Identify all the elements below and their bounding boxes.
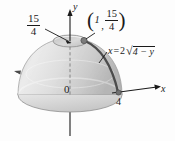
point-y-numerator: 15 — [105, 9, 118, 20]
radical-sign: √ — [126, 45, 133, 57]
equation-variable: x — [108, 46, 112, 56]
x-axis-label: x — [161, 84, 165, 94]
point-y-fraction: 15 4 — [105, 9, 118, 32]
cap-height-fraction: 15 4 — [27, 13, 40, 37]
equation-equals: = — [113, 46, 119, 56]
cap-height-denominator: 4 — [27, 26, 40, 37]
equation-coefficient: 2 — [120, 46, 125, 56]
origin-label: 0 — [64, 84, 70, 95]
point-x-value: 1 — [95, 15, 100, 26]
leader-line-point — [86, 33, 95, 39]
open-paren: ( — [87, 12, 94, 30]
y-axis-arrowhead — [67, 9, 72, 16]
x-tick-label-4: 4 — [116, 97, 121, 107]
equation-radical: √ 4 − y — [126, 45, 155, 57]
cap-height-label: 15 4 — [27, 13, 40, 37]
point-coordinate-label: ( 1 , 15 4 ) — [87, 9, 125, 32]
close-paren: ) — [118, 12, 125, 30]
base-ellipse-front — [18, 95, 122, 112]
point-marker-4 — [116, 90, 121, 95]
x-axis-arrowhead — [154, 85, 161, 90]
curve-equation-label: x = 2 √ 4 − y — [108, 45, 155, 57]
equation-radicand: 4 − y — [133, 46, 155, 57]
cap-height-numerator: 15 — [27, 13, 40, 24]
point-comma: , — [101, 21, 104, 33]
figure-canvas: 15 4 ( 1 , 15 4 ) x = 2 √ 4 − y y x 4 0 — [0, 0, 175, 141]
point-y-denominator: 4 — [105, 22, 118, 33]
point-marker-1-15-4 — [81, 37, 87, 43]
z-axis-arrowhead — [14, 70, 21, 74]
y-axis-label: y — [73, 2, 77, 12]
